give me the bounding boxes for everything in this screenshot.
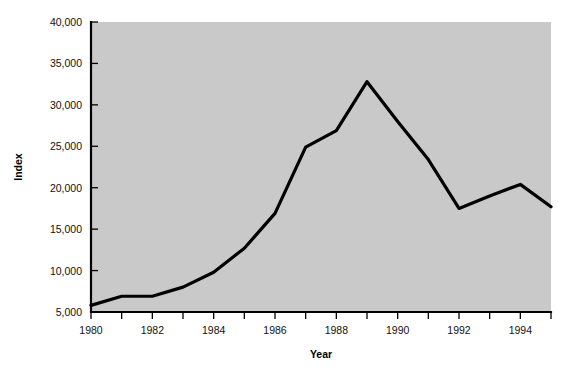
y-axis-title: Index [12, 153, 24, 181]
x-axis-title: Year [310, 348, 332, 360]
y-tick-label: 10,000 [50, 265, 82, 277]
x-tick-label: 1984 [202, 324, 226, 336]
y-tick-label: 30,000 [50, 99, 82, 111]
y-tick-label: 40,000 [50, 16, 82, 28]
x-tick-label: 1988 [325, 324, 349, 336]
y-tick-label: 25,000 [50, 140, 82, 152]
chart-container: 5,00010,00015,00020,00025,00030,00035,00… [0, 0, 563, 372]
y-tick-label: 15,000 [50, 223, 82, 235]
x-tick-label: 1992 [447, 324, 471, 336]
x-tick-label: 1982 [141, 324, 165, 336]
x-tick-label: 1980 [79, 324, 103, 336]
x-tick-label: 1990 [386, 324, 410, 336]
x-tick-label: 1986 [263, 324, 287, 336]
y-tick-label: 20,000 [50, 182, 82, 194]
plot-area-background [91, 22, 551, 312]
line-chart: 5,00010,00015,00020,00025,00030,00035,00… [0, 0, 563, 372]
x-tick-label: 1994 [509, 324, 533, 336]
y-tick-label: 35,000 [50, 57, 82, 69]
y-tick-label: 5,000 [56, 306, 82, 318]
